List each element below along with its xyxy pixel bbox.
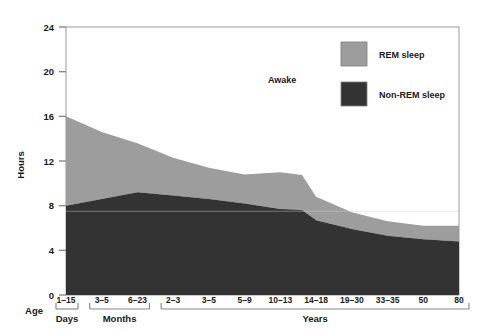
x-axis-tick-label: 80 — [454, 295, 464, 305]
x-group-band-label: Years — [302, 313, 327, 324]
chart-canvas: 04812162024 Hours 1–153–56–232–33–55–910… — [0, 0, 478, 332]
x-axis-tick-label: 3–5 — [95, 295, 109, 305]
non-rem-sleep-swatch — [341, 82, 367, 106]
x-axis-tick-label: 1–15 — [57, 295, 76, 305]
x-axis-tick-label: 14–18 — [304, 295, 328, 305]
x-axis-tick-label: 50 — [419, 295, 429, 305]
legend-item-label: Non-REM sleep — [379, 90, 446, 100]
x-axis-title: Age — [25, 305, 43, 316]
x-group-band-label: Months — [103, 313, 137, 324]
sleep-stages-area-chart: 04812162024 Hours 1–153–56–232–33–55–910… — [0, 0, 478, 332]
y-axis-tick-label: 24 — [43, 22, 54, 33]
x-axis-tick-label: 2–3 — [166, 295, 180, 305]
x-group-band-label: Days — [56, 313, 79, 324]
x-axis-tick-label: 19–30 — [340, 295, 364, 305]
awake-region-label: Awake — [268, 75, 296, 85]
y-axis-tick-label: 4 — [49, 245, 55, 256]
x-axis-tick-label: 33–35 — [376, 295, 400, 305]
x-axis-tick-label: 10–13 — [269, 295, 293, 305]
rem-sleep-swatch — [341, 42, 367, 66]
plot-annotations: Awake — [268, 75, 296, 85]
y-axis-tick-label: 12 — [43, 156, 54, 167]
legend-item-label: REM sleep — [379, 50, 425, 60]
x-axis-tick-label: 6–23 — [128, 295, 147, 305]
y-axis-tick-label: 0 — [49, 290, 54, 301]
x-axis-tick-label: 3–5 — [202, 295, 216, 305]
y-axis-tick-label: 16 — [43, 111, 54, 122]
y-axis-tick-label: 8 — [49, 200, 54, 211]
y-axis-title: Hours — [15, 151, 26, 178]
y-axis-tick-label: 20 — [43, 66, 54, 77]
x-axis-tick-label: 5–9 — [238, 295, 252, 305]
